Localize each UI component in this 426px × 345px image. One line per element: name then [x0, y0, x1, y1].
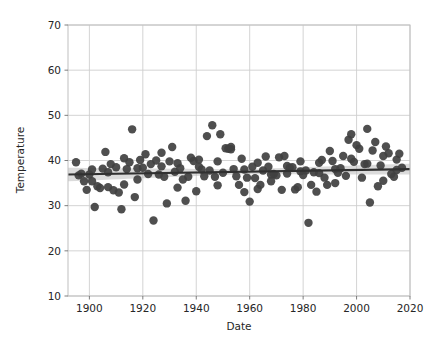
x-tick-label: 1960: [236, 302, 263, 314]
data-point: [176, 164, 184, 172]
data-point: [192, 187, 200, 195]
y-tick-label: 60: [48, 64, 61, 76]
x-tick-label: 1920: [129, 302, 156, 314]
data-point: [80, 177, 88, 185]
chart-figure: 1900192019401960198020002020 10203040506…: [0, 0, 426, 345]
y-tick-label: 30: [48, 199, 61, 211]
data-point: [328, 157, 336, 165]
data-point: [203, 132, 211, 140]
data-point: [371, 138, 379, 146]
data-point: [326, 147, 334, 155]
data-point: [379, 152, 387, 160]
data-point: [149, 216, 157, 224]
data-point: [256, 181, 264, 189]
data-point: [323, 181, 331, 189]
data-point: [141, 150, 149, 158]
data-point: [91, 203, 99, 211]
data-point: [101, 148, 109, 156]
data-point: [195, 163, 203, 171]
data-point: [363, 125, 371, 133]
y-tick-label: 70: [48, 19, 61, 31]
data-point: [264, 163, 272, 171]
x-tick-label: 2000: [343, 302, 370, 314]
data-point: [117, 205, 125, 213]
data-point: [165, 157, 173, 165]
data-point: [368, 146, 376, 154]
data-point: [128, 125, 136, 133]
y-tick-label: 10: [48, 290, 61, 302]
data-point: [227, 143, 235, 151]
data-point: [347, 130, 355, 138]
data-point: [237, 154, 245, 162]
y-axis-title: Temperature: [14, 127, 26, 195]
data-point: [232, 172, 240, 180]
data-point: [213, 181, 221, 189]
data-point: [240, 188, 248, 196]
data-point: [294, 183, 302, 191]
data-point: [131, 193, 139, 201]
data-point: [184, 173, 192, 181]
data-point: [211, 173, 219, 181]
data-point: [115, 188, 123, 196]
data-point: [120, 180, 128, 188]
data-point: [347, 154, 355, 162]
x-tick-label: 1980: [290, 302, 317, 314]
data-point: [331, 179, 339, 187]
x-tick-label: 2020: [397, 302, 424, 314]
data-point: [243, 173, 251, 181]
data-point: [235, 181, 243, 189]
data-point: [104, 168, 112, 176]
data-point: [278, 186, 286, 194]
data-point: [88, 165, 96, 173]
data-point: [262, 152, 270, 160]
data-point: [96, 184, 104, 192]
data-point: [363, 159, 371, 167]
scatter-plot: 1900192019401960198020002020 10203040506…: [0, 0, 426, 345]
x-tick-label: 1940: [183, 302, 210, 314]
x-axis-title: Date: [226, 320, 251, 332]
data-point: [125, 158, 133, 166]
data-point: [280, 152, 288, 160]
data-point: [168, 143, 176, 151]
data-point: [304, 219, 312, 227]
data-point: [366, 198, 374, 206]
data-point: [254, 159, 262, 167]
data-point: [83, 186, 91, 194]
data-point: [157, 162, 165, 170]
y-tick-label: 40: [48, 154, 61, 166]
data-point: [395, 150, 403, 158]
data-point: [163, 199, 171, 207]
data-point: [195, 155, 203, 163]
x-tick-label: 1900: [76, 302, 103, 314]
data-point: [342, 172, 350, 180]
data-point: [208, 121, 216, 129]
data-point: [379, 177, 387, 185]
data-point: [251, 174, 259, 182]
data-point: [133, 175, 141, 183]
data-point: [157, 149, 165, 157]
data-point: [355, 145, 363, 153]
data-point: [213, 157, 221, 165]
data-point: [296, 157, 304, 165]
data-point: [307, 181, 315, 189]
data-point: [245, 197, 253, 205]
y-tick-label: 50: [48, 109, 61, 121]
data-point: [331, 165, 339, 173]
y-tick-label: 20: [48, 245, 61, 257]
data-point: [173, 183, 181, 191]
data-point: [376, 161, 384, 169]
data-point: [358, 173, 366, 181]
data-point: [318, 156, 326, 164]
data-point: [339, 152, 347, 160]
data-point: [72, 158, 80, 166]
data-point: [112, 163, 120, 171]
data-point: [216, 130, 224, 138]
data-point: [181, 197, 189, 205]
data-point: [312, 187, 320, 195]
